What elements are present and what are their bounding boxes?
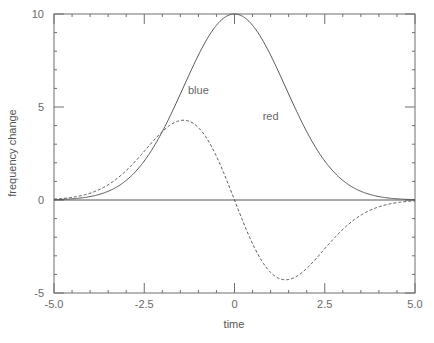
data-series: [54, 14, 415, 280]
annotations: bluered: [188, 84, 279, 122]
plot-frame: [54, 14, 415, 293]
annotation-blue: blue: [188, 84, 209, 96]
plot-border: [54, 14, 415, 293]
y-tick-label: 5: [38, 101, 44, 113]
axis-ticks: [54, 14, 415, 293]
y-tick-label: -5: [34, 287, 44, 299]
y-axis-title: frequency change: [6, 109, 18, 196]
series-gaussian-solid: [54, 14, 415, 200]
x-tick-label: -5.0: [45, 298, 64, 310]
tick-labels: -5.0-2.502.55.0-50510: [32, 8, 423, 310]
x-axis-title: time: [224, 318, 245, 330]
x-tick-label: 2.5: [317, 298, 332, 310]
annotation-red: red: [263, 110, 279, 122]
x-tick-label: 5.0: [407, 298, 422, 310]
y-tick-label: 10: [32, 8, 44, 20]
chart: -5.0-2.502.55.0-50510 bluered time frequ…: [0, 0, 434, 343]
y-tick-label: 0: [38, 194, 44, 206]
x-tick-label: -2.5: [135, 298, 154, 310]
x-tick-label: 0: [231, 298, 237, 310]
